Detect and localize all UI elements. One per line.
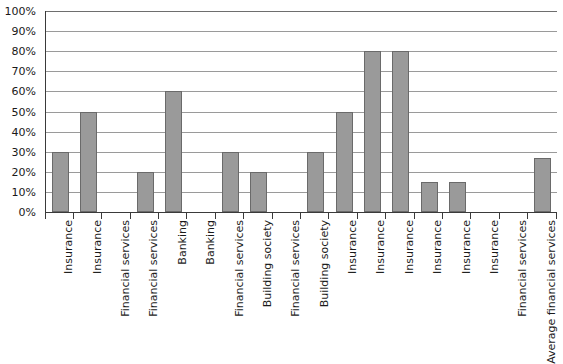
x-axis-tick: [244, 213, 272, 219]
x-axis-label-cell: Financial services: [215, 220, 243, 360]
tick-mark: [556, 213, 557, 219]
x-axis-label-cell: Banking: [187, 220, 215, 360]
x-axis-tick: [442, 213, 470, 219]
x-axis-tick: [386, 213, 414, 219]
y-axis-tick-label: 90%: [12, 26, 36, 37]
tick-mark: [328, 213, 329, 219]
x-axis-label-cell: Financial services: [102, 220, 130, 360]
y-axis-tick-label: 30%: [12, 146, 36, 157]
tick-mark: [158, 213, 159, 219]
x-axis-labels: InsuranceInsuranceFinancial servicesFina…: [45, 220, 556, 360]
bar-slot: [245, 11, 273, 212]
bar-slot: [188, 11, 216, 212]
x-axis-label-cell: Insurance: [329, 220, 357, 360]
bar-slot: [216, 11, 244, 212]
x-axis-tick: [528, 213, 556, 219]
x-axis-tick: [414, 213, 442, 219]
x-axis-tick: [272, 213, 300, 219]
y-axis-tick-label: 20%: [12, 166, 36, 177]
x-axis-tick: [357, 213, 385, 219]
x-axis-tick: [102, 213, 130, 219]
x-axis-tick: [73, 213, 101, 219]
bar: [421, 182, 438, 212]
tick-mark: [527, 213, 528, 219]
x-axis-label-cell: Insurance: [442, 220, 470, 360]
tick-mark: [385, 213, 386, 219]
bar-slot: [46, 11, 74, 212]
bar-slot: [103, 11, 131, 212]
tick-mark: [215, 213, 216, 219]
bar-slot: [74, 11, 102, 212]
x-axis-tick: [45, 213, 73, 219]
bar: [137, 172, 154, 212]
y-axis-tick-label: 0%: [19, 207, 36, 218]
bar-slot: [387, 11, 415, 212]
bar-slot: [443, 11, 471, 212]
x-axis-label-cell: Insurance: [471, 220, 499, 360]
tick-mark: [130, 213, 131, 219]
x-axis-label-cell: Insurance: [414, 220, 442, 360]
x-axis-tick: [499, 213, 527, 219]
tick-mark: [101, 213, 102, 219]
tick-mark: [300, 213, 301, 219]
bar-slot: [415, 11, 443, 212]
x-axis-tick: [187, 213, 215, 219]
x-axis-tick: [471, 213, 499, 219]
x-axis-label-cell: Building society: [244, 220, 272, 360]
x-axis-tick: [215, 213, 243, 219]
tick-mark: [442, 213, 443, 219]
y-axis-tick-label: 60%: [12, 86, 36, 97]
bar-slot: [529, 11, 557, 212]
bar-slot: [273, 11, 301, 212]
x-axis-ticks: [45, 213, 556, 219]
x-axis-label-cell: Building society: [301, 220, 329, 360]
bar-slot: [472, 11, 500, 212]
x-axis-tick: [301, 213, 329, 219]
tick-mark: [272, 213, 273, 219]
x-axis-tick-label: Average financial services: [546, 220, 558, 364]
y-axis-tick-label: 100%: [5, 6, 36, 17]
tick-mark: [73, 213, 74, 219]
plot-area: [45, 11, 557, 213]
x-axis-label-cell: Insurance: [357, 220, 385, 360]
bar: [52, 152, 69, 212]
x-axis-label-cell: Financial services: [130, 220, 158, 360]
bar: [449, 182, 466, 212]
y-axis-tick-label: 70%: [12, 66, 36, 77]
x-axis-label-cell: Financial services: [272, 220, 300, 360]
x-axis-label-cell: Average financial services: [528, 220, 556, 360]
tick-mark: [414, 213, 415, 219]
bar: [307, 152, 324, 212]
bar: [534, 158, 551, 212]
bar: [364, 51, 381, 212]
bar-slot: [131, 11, 159, 212]
y-axis-tick-label: 10%: [12, 186, 36, 197]
tick-mark: [357, 213, 358, 219]
y-axis-tick-label: 50%: [12, 106, 36, 117]
tick-mark: [243, 213, 244, 219]
tick-mark: [470, 213, 471, 219]
x-axis-label-cell: Insurance: [73, 220, 101, 360]
x-axis-label-cell: Insurance: [45, 220, 73, 360]
bars-layer: [46, 11, 557, 212]
tick-mark: [186, 213, 187, 219]
x-axis-tick: [159, 213, 187, 219]
bar: [165, 91, 182, 212]
bar: [336, 112, 353, 213]
y-axis: 0%10%20%30%40%50%60%70%80%90%100%: [0, 0, 41, 360]
x-axis-tick: [130, 213, 158, 219]
bar-slot: [358, 11, 386, 212]
x-axis-label-cell: Insurance: [386, 220, 414, 360]
bar-slot: [330, 11, 358, 212]
x-axis-tick: [329, 213, 357, 219]
bar: [392, 51, 409, 212]
bar: [80, 112, 97, 213]
bar-slot: [302, 11, 330, 212]
y-axis-tick-label: 80%: [12, 46, 36, 57]
bar-slot: [160, 11, 188, 212]
tick-mark: [499, 213, 500, 219]
bar-slot: [500, 11, 528, 212]
x-axis-label-cell: Banking: [159, 220, 187, 360]
x-axis-label-cell: Financial services: [499, 220, 527, 360]
